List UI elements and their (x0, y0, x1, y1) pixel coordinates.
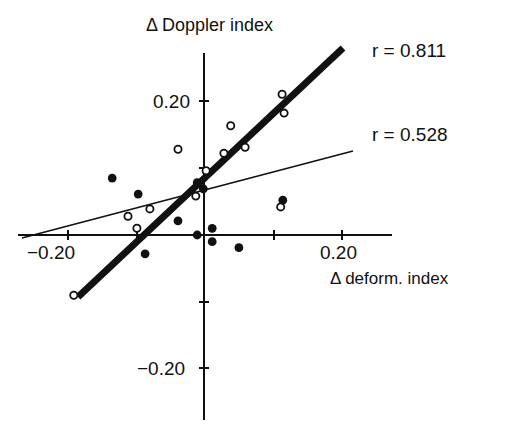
open-circle-point (279, 91, 286, 98)
open-circle-point (70, 292, 77, 299)
open-circle-point (192, 193, 199, 200)
open-circle-point (174, 146, 181, 153)
open-circle-point (220, 150, 227, 157)
filled-circle-point (193, 231, 202, 240)
filled-circle-point (134, 190, 143, 199)
regression-line-thick (78, 48, 343, 297)
r-label-thin: r = 0.528 (372, 124, 448, 145)
filled-circle-point (199, 184, 208, 193)
x-tick-label-neg: −0.20 (27, 242, 75, 263)
open-circle-point (124, 213, 131, 220)
r-label-thick: r = 0.811 (372, 40, 446, 61)
x-axis-label: Δ deform. index (330, 269, 449, 288)
filled-circle-point (208, 224, 217, 233)
open-circle-point (281, 110, 288, 117)
filled-circle-point (208, 237, 217, 246)
x-tick-label-pos: 0.20 (320, 242, 357, 263)
y-tick-label-neg: −0.20 (137, 358, 185, 379)
open-circle-point (146, 205, 153, 212)
y-axis-label: Δ Doppler index (146, 15, 273, 35)
filled-circle-point (235, 243, 244, 252)
open-circle-point (203, 167, 210, 174)
y-tick-label-pos: 0.20 (153, 91, 190, 112)
open-circle-point (227, 122, 234, 129)
filled-circle-point (174, 217, 183, 226)
filled-circle-point (108, 174, 117, 183)
filled-circle-point (141, 249, 150, 258)
open-circle-point (133, 225, 140, 232)
axes (18, 53, 392, 420)
scatter-chart: Δ Doppler index Δ deform. index r = 0.81… (0, 0, 505, 435)
data-points (70, 91, 288, 299)
open-circle-point (242, 144, 249, 151)
filled-circle-point (278, 196, 287, 205)
